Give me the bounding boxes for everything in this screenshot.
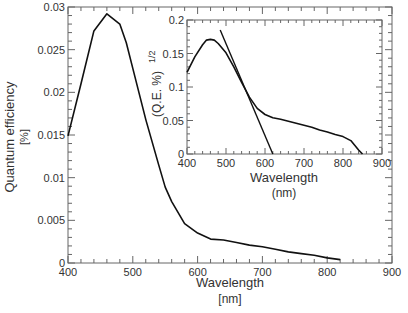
y-tick-label: 0.1 (169, 81, 184, 93)
x-tick-label: 800 (318, 266, 336, 278)
y-tick-label: 0.05 (163, 115, 184, 127)
inset-x-tick-labels: 400500600700800900 (178, 157, 391, 169)
inset-y-tick-labels: 00.050.10.150.2 (163, 14, 184, 160)
x-tick-label: 600 (256, 157, 274, 169)
y-tick-label: 0.03 (44, 1, 65, 13)
x-tick-label: 500 (217, 157, 235, 169)
y-tick-label: 0.025 (37, 44, 65, 56)
inset-y-axis-label-superscript: 1/2 (147, 50, 157, 63)
x-tick-label: 900 (383, 266, 401, 278)
y-tick-label: 0.15 (163, 48, 184, 60)
y-tick-label: 0.015 (37, 129, 65, 141)
y-tick-label: 0.005 (37, 214, 65, 226)
x-tick-label: 700 (295, 157, 313, 169)
inset-x-axis-label: Wavelength (250, 170, 318, 185)
y-tick-label: 0.2 (169, 14, 184, 26)
y-tick-label: 0 (178, 148, 184, 160)
main-x-axis-unit: [nm] (218, 292, 241, 306)
y-tick-label: 0.01 (44, 172, 65, 184)
y-tick-label: 0 (59, 257, 65, 269)
x-tick-label: 500 (124, 266, 142, 278)
y-tick-label: 0.02 (44, 86, 65, 98)
inset-x-axis-unit: (nm) (272, 186, 297, 200)
inset-y-axis-label-group: (Q.E. %) 1/2 (147, 50, 164, 117)
main-x-axis-label: Wavelength (196, 275, 264, 290)
inset-y-axis-label: (Q.E. %) (150, 71, 164, 117)
chart: 400500600700800900 00.0050.010.0150.020.… (0, 0, 408, 313)
x-tick-label: 900 (373, 157, 391, 169)
x-tick-label: 800 (334, 157, 352, 169)
main-y-axis-unit: [%] (18, 129, 30, 145)
main-y-tick-labels: 00.0050.010.0150.020.0250.03 (37, 1, 65, 269)
inset-background (187, 20, 382, 154)
inset-plot: 400500600700800900 00.050.10.150.2 Wavel… (147, 14, 391, 200)
main-y-axis-label: Quantum efficiency (2, 81, 17, 193)
